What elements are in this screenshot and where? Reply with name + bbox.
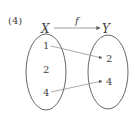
problem-number: (4) (8, 15, 22, 26)
x-element-1: 1 (43, 40, 49, 51)
function-label: f (74, 15, 81, 26)
y-element-4: 4 (106, 76, 112, 87)
y-element-2: 2 (106, 53, 112, 64)
x-element-4: 4 (43, 87, 49, 98)
mapping-arrow-4-to-4 (51, 81, 102, 92)
mapping-arrow-1-to-2 (51, 46, 102, 58)
x-element-2: 2 (43, 64, 49, 75)
mapping-diagram: (4) X Y f 1 2 4 2 4 (0, 0, 135, 128)
set-y-label: Y (102, 22, 111, 36)
set-y-ellipse (88, 35, 128, 109)
